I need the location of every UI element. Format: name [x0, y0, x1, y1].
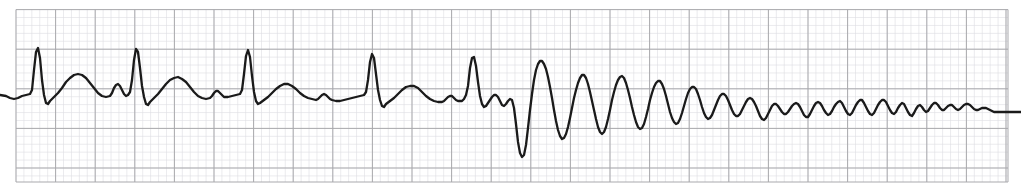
ecg-chart: [0, 0, 1021, 189]
chart-background: [0, 0, 1021, 189]
ecg-rhythm-strip: [0, 0, 1021, 189]
